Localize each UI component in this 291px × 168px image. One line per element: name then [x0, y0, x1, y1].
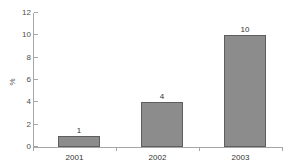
- x-tick-mark-icon: [199, 147, 200, 151]
- bar-group-2002: 4: [141, 13, 183, 147]
- y-tick-label: 12: [22, 8, 31, 18]
- x-axis-line: [33, 147, 283, 148]
- y-tick-label: 2: [27, 120, 31, 130]
- x-category-label-2003: 2003: [199, 153, 282, 163]
- bar-group-2003: 10: [224, 13, 266, 147]
- bar-group-2001: 1: [58, 13, 100, 147]
- y-tick-label: 0: [27, 142, 31, 152]
- plot-area: 1 4 10: [34, 13, 283, 147]
- y-tick-label: 6: [27, 75, 31, 85]
- bar-value-label: 4: [141, 92, 183, 102]
- bar-value-label: 1: [58, 126, 100, 136]
- y-tick-label: 10: [22, 30, 31, 40]
- y-tick-label: 4: [27, 97, 31, 107]
- bar-chart-figure: % 12 10 8 6 4 2 0 1: [0, 0, 291, 168]
- x-category-label-2002: 2002: [116, 153, 199, 163]
- x-tick-mark-icon: [33, 147, 34, 151]
- bar-value-label: 10: [224, 25, 266, 35]
- x-category-label-2001: 2001: [33, 153, 116, 163]
- x-tick-mark-icon: [282, 147, 283, 151]
- y-tick-label: 8: [27, 53, 31, 63]
- bar-2001[interactable]: [58, 136, 100, 147]
- bar-2003[interactable]: [224, 35, 266, 147]
- x-tick-mark-icon: [116, 147, 117, 151]
- bar-2002[interactable]: [141, 102, 183, 147]
